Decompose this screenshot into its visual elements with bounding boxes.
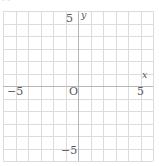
origin-label: O [69,86,78,97]
x-axis-tick-label-positive-five: 5 [137,86,144,97]
x-axis-tick-label-negative-five: −5 [7,86,23,97]
y-axis-tick-label-negative-five: −5 [61,145,77,156]
coordinate-grid-figure: - - [0,0,159,166]
y-axis-name-label: y [81,10,86,20]
x-axis-name-label: x [142,70,147,80]
y-axis-tick-label-positive-five: 5 [66,13,73,24]
coordinate-plane [0,0,159,166]
